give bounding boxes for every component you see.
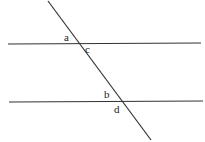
angle-label-a: a — [64, 31, 69, 43]
top-parallel-line — [8, 43, 201, 44]
bottom-parallel-line — [9, 101, 203, 102]
geometry-diagram: a c b d — [0, 0, 205, 142]
angle-label-b: b — [104, 88, 110, 100]
transversal-line — [48, 1, 151, 140]
angle-label-c: c — [85, 43, 90, 55]
angle-label-d: d — [114, 103, 120, 115]
